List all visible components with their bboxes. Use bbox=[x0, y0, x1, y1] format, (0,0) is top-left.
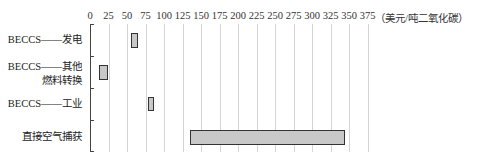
x-tick-label: 150 bbox=[193, 10, 209, 21]
x-tick-label: 375 bbox=[360, 10, 376, 21]
x-tick-label: 350 bbox=[341, 10, 357, 21]
x-tick-label: 25 bbox=[103, 10, 114, 21]
x-tick-label: 300 bbox=[304, 10, 320, 21]
y-axis-tick bbox=[90, 88, 94, 89]
gridline bbox=[146, 24, 147, 152]
gridline bbox=[183, 24, 184, 152]
gridline bbox=[349, 24, 350, 152]
x-tick-label: 50 bbox=[122, 10, 133, 21]
gridline bbox=[368, 24, 369, 152]
category-label-text: 直接空气捕获 bbox=[22, 131, 82, 142]
range-bar bbox=[99, 65, 108, 80]
y-axis-top-cap bbox=[90, 24, 94, 25]
x-tick-label: 75 bbox=[140, 10, 151, 21]
category-label-beccs-fuel: BECCS——其他 燃料转换 bbox=[8, 60, 82, 88]
x-tick-label: 275 bbox=[286, 10, 302, 21]
gridline bbox=[164, 24, 165, 152]
category-label-text: 燃料转换 bbox=[8, 74, 82, 88]
category-label-text: BECCS——工业 bbox=[8, 98, 82, 109]
category-label-dac: 直接空气捕获 bbox=[22, 130, 82, 144]
category-label-beccs-industry: BECCS——工业 bbox=[8, 97, 82, 111]
x-tick-label: 0 bbox=[87, 10, 92, 21]
range-bar bbox=[148, 97, 154, 111]
x-tick-label: 125 bbox=[175, 10, 191, 21]
x-tick-label: 100 bbox=[156, 10, 172, 21]
y-axis-tick bbox=[90, 120, 94, 121]
range-bar bbox=[131, 33, 138, 48]
y-axis-tick bbox=[90, 56, 94, 57]
x-axis-unit-label: （美元/吨二氧化碳） bbox=[375, 10, 468, 25]
cost-range-chart: 0255075100125150175200225250275300325350… bbox=[0, 0, 482, 163]
range-bar bbox=[190, 130, 345, 145]
category-label-text: BECCS——其他 bbox=[8, 60, 82, 74]
y-axis-bottom-cap bbox=[90, 151, 94, 152]
category-label-beccs-power: BECCS——发电 bbox=[8, 33, 82, 47]
gridline bbox=[109, 24, 110, 152]
x-tick-label: 225 bbox=[249, 10, 265, 21]
x-tick-label: 175 bbox=[212, 10, 228, 21]
x-tick-label: 200 bbox=[230, 10, 246, 21]
x-tick-label: 325 bbox=[323, 10, 339, 21]
x-tick-label: 250 bbox=[267, 10, 283, 21]
gridline bbox=[127, 24, 128, 152]
category-label-text: BECCS——发电 bbox=[8, 34, 82, 45]
